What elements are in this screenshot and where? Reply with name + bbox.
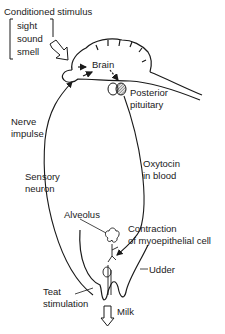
oxytocin-label: Oxytocin [143, 158, 180, 169]
alveolus-label: Alveolus [64, 209, 100, 220]
stimulus-sight: sight [17, 20, 37, 31]
milk-label: Milk [117, 306, 134, 317]
stimulation-label: stimulation [43, 298, 88, 309]
myoepithelial-label: of myoepithelial cell [128, 235, 211, 246]
stimulus-smell: smell [17, 46, 39, 57]
conditioned-stimulus-label: Conditioned stimulus [4, 6, 92, 17]
posterior-label: Posterior [130, 87, 168, 98]
alveolus-leader [80, 219, 106, 233]
stimulus-arrow-icon [50, 40, 68, 60]
pituitary-icon [108, 83, 126, 95]
brain-label: Brain [92, 59, 114, 70]
impulse-label: impulse [11, 128, 44, 139]
sensory-label: Sensory [25, 171, 60, 182]
stimulus-sound: sound [17, 33, 43, 44]
udder-label: Udder [149, 264, 175, 275]
in-blood-label: in blood [143, 170, 176, 181]
contraction-label: Contraction [128, 223, 177, 234]
teat-label: Teat [43, 286, 61, 297]
milk-arrow-icon [101, 306, 114, 326]
pituitary-label: pituitary [130, 99, 163, 110]
nerve-label: Nerve [11, 116, 36, 127]
neuron-label: neuron [25, 183, 55, 194]
